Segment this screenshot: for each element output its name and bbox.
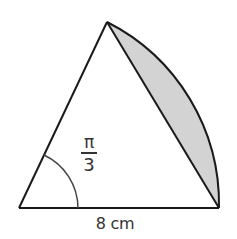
base-length-label: 8 cm [80,214,150,233]
angle-numerator: π [74,133,104,151]
angle-denominator: 3 [74,156,104,174]
triangle-left-side [19,22,107,208]
triangle-chord [107,22,219,208]
diagram-canvas: π 3 8 cm [0,0,237,239]
sector-diagram [0,0,237,239]
angle-marker-arc [44,155,78,208]
angle-label: π 3 [74,133,104,174]
